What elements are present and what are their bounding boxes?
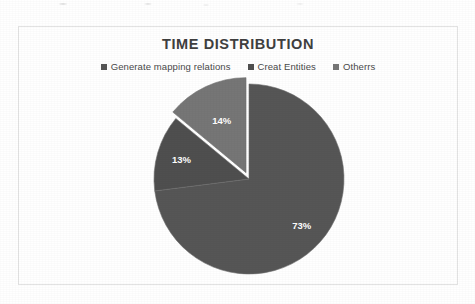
scan-artifact <box>0 0 475 14</box>
chart-frame: TIME DISTRIBUTION Generate mapping relat… <box>18 26 458 285</box>
pie-slice-label: 73% <box>292 220 312 231</box>
pie-slice-label: 13% <box>172 154 192 165</box>
pie-chart-area: 73%13%14% <box>19 27 459 286</box>
pie-chart: 73%13%14% <box>19 27 459 286</box>
pie-slice-label: 14% <box>212 115 232 126</box>
